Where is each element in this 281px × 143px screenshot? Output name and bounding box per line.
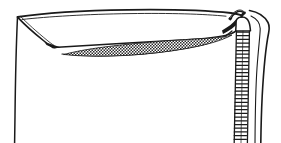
- body-panel: [10, 12, 243, 143]
- illustration-canvas: Zippered garment top line drawing Garmen…: [0, 0, 281, 143]
- line-art-drawing: [0, 0, 281, 143]
